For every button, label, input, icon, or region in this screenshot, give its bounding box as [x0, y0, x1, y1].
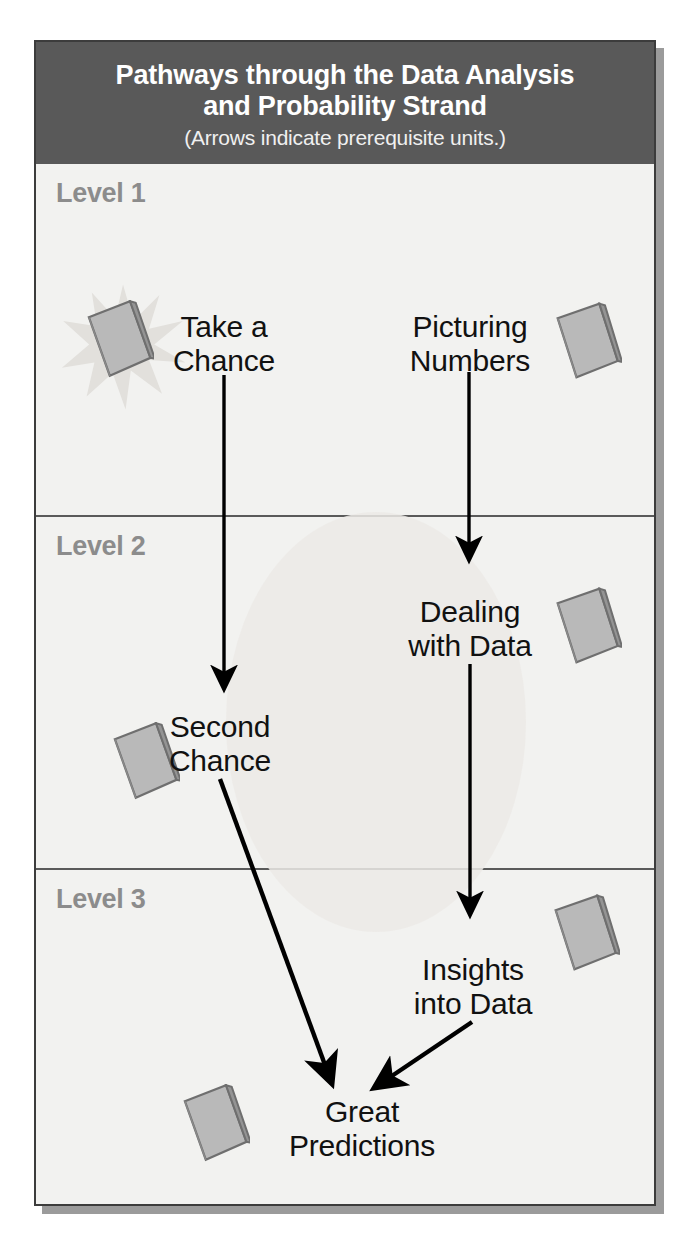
unit-label-second-chance[interactable]: Second Chance [169, 710, 271, 777]
unit-label-great-predictions[interactable]: Great Predictions [289, 1095, 435, 1162]
book-icon [82, 300, 154, 378]
book-icon [178, 1084, 250, 1162]
poster-title: Pathways through the Data Analysis and P… [116, 60, 575, 120]
book-icon [548, 894, 620, 972]
unit-label-take-a-chance[interactable]: Take a Chance [173, 310, 275, 377]
level-label-2: Level 2 [56, 531, 145, 562]
poster-header: Pathways through the Data Analysis and P… [36, 42, 654, 164]
diagram-root: Pathways through the Data Analysis and P… [0, 0, 692, 1254]
level-label-3: Level 3 [56, 884, 145, 915]
unit-label-dealing-with-data[interactable]: Dealing with Data [408, 595, 531, 662]
unit-label-insights-into-data[interactable]: Insights into Data [414, 953, 532, 1020]
pathways-poster: Pathways through the Data Analysis and P… [34, 40, 656, 1206]
poster-subtitle: (Arrows indicate prerequisite units.) [184, 126, 506, 150]
level-band-2: Level 2 [36, 515, 654, 868]
level-label-1: Level 1 [56, 178, 145, 209]
book-icon [550, 302, 622, 380]
unit-label-picturing-numbers[interactable]: Picturing Numbers [410, 310, 530, 377]
book-icon [550, 587, 622, 665]
